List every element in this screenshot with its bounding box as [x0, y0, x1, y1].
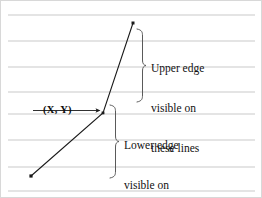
upper-edge-brace — [137, 29, 146, 102]
lower-edge-annotation: Lower edge visible on these lines — [124, 113, 179, 198]
lower-edge-annotation-line-2: visible on — [124, 179, 179, 192]
upper-edge-annotation-line-1: Upper edge — [151, 62, 204, 75]
polyline-edge — [31, 23, 133, 176]
lower-edge-annotation-line-1: Lower edge — [124, 139, 179, 152]
figure-canvas: (X, Y) Upper edge visible on these lines… — [0, 0, 262, 198]
vertex-coordinate-label: (X, Y) — [43, 104, 72, 115]
polyline-group — [29, 22, 134, 178]
vertex-marker-upper — [132, 22, 135, 25]
vertex-marker-lower — [29, 174, 32, 177]
vertex-marker-middle — [102, 112, 105, 115]
